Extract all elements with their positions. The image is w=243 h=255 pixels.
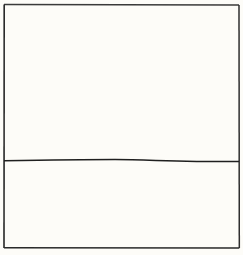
horizontal-divider: [4, 160, 239, 162]
box-top-edge: [4, 5, 239, 6]
top-section: [5, 6, 238, 159]
bottom-section: [5, 163, 238, 247]
diagram-canvas: [0, 0, 243, 255]
divided-box-diagram: [0, 0, 243, 255]
